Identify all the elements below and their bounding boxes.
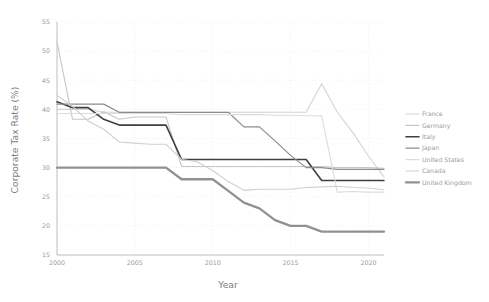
series-line-france [57, 84, 384, 177]
legend-label-united-states: United States [422, 156, 464, 163]
y-tick-label: 40 [42, 106, 50, 113]
series-line-united-kingdom [57, 168, 384, 232]
x-tick-label: 2010 [205, 259, 221, 266]
legend-label-italy: Italy [422, 133, 436, 141]
legend-label-japan: Japan [421, 144, 439, 152]
y-tick-label: 25 [42, 193, 50, 200]
series-line-united-states [57, 113, 384, 192]
line-chart-canvas: 152025303540455055 20002005201020152020 … [0, 0, 489, 302]
x-axis-title: Year [217, 279, 238, 290]
y-tick-label: 45 [42, 77, 50, 84]
legend-label-france: France [422, 110, 443, 117]
y-axis-title: Corporate Tax Rate (%) [9, 87, 20, 194]
chart-figure: 152025303540455055 20002005201020152020 … [0, 0, 489, 302]
x-tick-label: 2000 [49, 259, 65, 266]
y-tick-label: 35 [42, 135, 50, 142]
y-tick-label: 55 [42, 18, 50, 25]
x-axis-tick-labels: 20002005201020152020 [49, 259, 376, 266]
x-tick-label: 2005 [127, 259, 143, 266]
legend-label-united-kingdom: United Kingdom [422, 179, 472, 187]
y-tick-label: 50 [42, 47, 50, 54]
legend-label-canada: Canada [422, 167, 446, 174]
y-axis-tick-labels: 152025303540455055 [42, 18, 50, 258]
grid-lines [57, 22, 384, 255]
y-tick-label: 30 [42, 164, 50, 171]
y-tick-label: 15 [42, 251, 50, 258]
x-tick-label: 2020 [360, 259, 376, 266]
chart-legend: FranceGermanyItalyJapanUnited StatesCana… [406, 110, 472, 186]
legend-label-germany: Germany [422, 122, 451, 130]
x-tick-label: 2015 [283, 259, 299, 266]
y-tick-label: 20 [42, 222, 50, 229]
data-series-lines [57, 42, 384, 232]
